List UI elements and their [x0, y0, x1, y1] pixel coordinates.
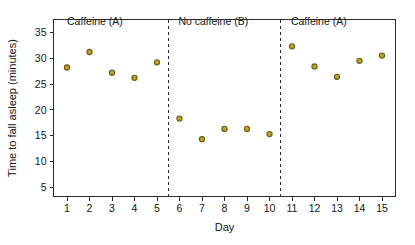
x-tick-label: 8 [222, 202, 228, 214]
y-tick-label: 20 [35, 104, 47, 116]
x-tick-label: 14 [354, 202, 366, 214]
panel-label: Caffeine (A) [291, 15, 347, 27]
data-point [132, 75, 137, 80]
y-tick-label: 35 [35, 26, 47, 38]
phase-dividers [168, 20, 281, 197]
y-tick-label: 30 [35, 52, 47, 64]
x-tick-label: 5 [154, 202, 160, 214]
data-point [199, 137, 204, 142]
data-point [109, 70, 114, 75]
data-point [267, 131, 272, 136]
y-axis-title: Time to fall asleep (minutes) [6, 39, 18, 177]
x-tick-label: 10 [264, 202, 276, 214]
data-point [177, 116, 182, 121]
y-tick-label: 25 [35, 78, 47, 90]
data-point [64, 65, 69, 70]
y-axis-ticks: 5101520253035 [35, 26, 54, 193]
scatter-chart: Caffeine (A)No caffeine (B)Caffeine (A) … [0, 0, 415, 245]
y-tick-label: 5 [41, 181, 47, 193]
panel-annotations: Caffeine (A)No caffeine (B)Caffeine (A) [67, 15, 347, 27]
x-tick-label: 2 [87, 202, 93, 214]
x-axis-ticks: 123456789101112131415 [64, 197, 388, 214]
data-point [244, 126, 249, 131]
data-point [87, 49, 92, 54]
data-point [222, 126, 227, 131]
plot-frame [54, 20, 396, 197]
x-tick-label: 13 [331, 202, 343, 214]
data-points [64, 44, 384, 142]
plot-canvas: Caffeine (A)No caffeine (B)Caffeine (A) … [0, 0, 415, 245]
data-point [357, 58, 362, 63]
panel-label: Caffeine (A) [67, 15, 123, 27]
data-point [154, 60, 159, 65]
x-tick-label: 4 [132, 202, 138, 214]
x-tick-label: 15 [376, 202, 388, 214]
x-tick-label: 3 [109, 202, 115, 214]
data-point [312, 64, 317, 69]
x-tick-label: 7 [199, 202, 205, 214]
y-tick-label: 15 [35, 129, 47, 141]
axes-frame [54, 20, 396, 197]
x-tick-label: 9 [244, 202, 250, 214]
y-tick-label: 10 [35, 155, 47, 167]
x-tick-label: 12 [309, 202, 321, 214]
data-point [334, 74, 339, 79]
x-axis-title: Day [215, 221, 235, 233]
x-tick-label: 6 [177, 202, 183, 214]
panel-label: No caffeine (B) [178, 15, 248, 27]
data-point [379, 53, 384, 58]
x-tick-label: 11 [287, 202, 298, 214]
data-point [289, 44, 294, 49]
x-tick-label: 1 [64, 202, 70, 214]
